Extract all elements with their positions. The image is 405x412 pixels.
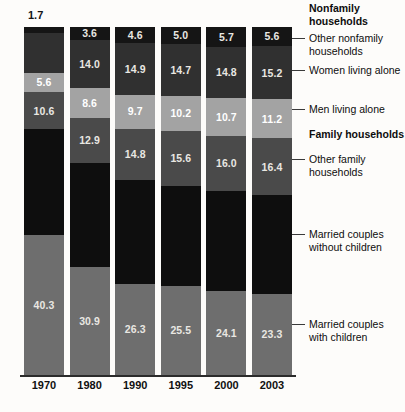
- legend-callout: Family households: [292, 128, 404, 141]
- bar-segment: 16.4: [252, 138, 292, 195]
- bar-segment: 14.8: [206, 47, 246, 99]
- bar-segment: 10.6: [24, 92, 64, 129]
- leader-line: [292, 38, 305, 39]
- stacked-bar-chart: 1.75.610.640.33.614.08.612.930.94.614.99…: [0, 0, 405, 412]
- x-axis-line: [20, 375, 296, 377]
- segment-value-label: 5.6: [37, 77, 52, 88]
- exterior-value-label: 1.7: [28, 9, 43, 21]
- bar-segment: [252, 195, 292, 293]
- bar-segment: [24, 33, 64, 73]
- legend-callout-label: Family households: [309, 128, 404, 141]
- segment-value-label: 23.3: [262, 329, 283, 340]
- segment-value-label: 4.6: [128, 30, 143, 41]
- legend-callout-label: Men living alone: [309, 103, 385, 116]
- segment-value-label: 30.9: [79, 316, 100, 327]
- segment-value-label: 16.0: [216, 158, 237, 169]
- legend-callout-label: Married couples without children: [309, 228, 384, 253]
- bar-segment: 10.2: [161, 96, 201, 132]
- bar-segment: 11.2: [252, 99, 292, 138]
- bar-segment: 9.7: [115, 95, 155, 129]
- bar-segment: 15.2: [252, 46, 292, 99]
- legend-callout: Nonfamily households: [292, 2, 405, 27]
- bar-segment: 24.1: [206, 291, 246, 375]
- bar-segment: 5.6: [24, 73, 64, 92]
- bar-segment: 5.0: [161, 27, 201, 44]
- bar-segment: 15.6: [161, 131, 201, 185]
- bar-column: 5.014.710.215.625.5: [161, 27, 201, 375]
- segment-value-label: 25.5: [170, 325, 191, 336]
- bar-segment: 14.8: [115, 129, 155, 180]
- segment-value-label: 9.7: [128, 106, 143, 117]
- segment-value-label: 26.3: [125, 324, 146, 335]
- bar-column: 5.714.810.716.024.1: [206, 27, 246, 375]
- legend-callout: Other family households: [292, 153, 366, 178]
- segment-value-label: 12.9: [79, 135, 100, 146]
- bar-segment: 5.6: [252, 27, 292, 46]
- legend-callouts: Nonfamily householdsOther nonfamily hous…: [292, 0, 405, 412]
- leader-line: [292, 234, 305, 235]
- bar-segment: [24, 129, 64, 234]
- segment-value-label: 40.3: [34, 300, 55, 311]
- bar-segment: [161, 186, 201, 287]
- leader-line: [292, 70, 305, 71]
- bar-segment: 4.6: [115, 27, 155, 43]
- x-tick-label-2003: 2003: [246, 379, 298, 391]
- segment-value-label: 5.7: [219, 32, 234, 43]
- bar-segment: 30.9: [70, 267, 110, 375]
- bar-column: 1.75.610.640.3: [24, 27, 64, 375]
- legend-callout: Other nonfamily households: [292, 32, 383, 57]
- legend-callout: Women living alone: [292, 64, 400, 77]
- segment-value-label: 24.1: [216, 328, 237, 339]
- bar-segment: 16.0: [206, 136, 246, 192]
- segment-value-label: 10.7: [216, 112, 237, 123]
- legend-callout: Men living alone: [292, 103, 385, 116]
- bar-segment: 23.3: [252, 294, 292, 375]
- bar-segment: 5.7: [206, 27, 246, 47]
- bar-column: 5.615.211.216.423.3: [252, 27, 292, 375]
- bar-segment: 40.3: [24, 235, 64, 375]
- leader-line: [292, 159, 305, 160]
- bar-segment: 14.0: [70, 40, 110, 89]
- legend-callout-label: Nonfamily households: [309, 2, 405, 27]
- segment-value-label: 15.6: [170, 153, 191, 164]
- segment-value-label: 10.6: [34, 106, 55, 117]
- segment-value-label: 14.8: [216, 67, 237, 78]
- leader-line: [292, 324, 305, 325]
- leader-line: [292, 8, 305, 9]
- segment-value-label: 5.6: [265, 31, 280, 42]
- segment-value-label: 11.2: [262, 114, 282, 125]
- segment-value-label: 14.7: [170, 65, 191, 76]
- segment-value-label: 5.0: [173, 30, 188, 41]
- x-tick-label-1980: 1980: [64, 379, 116, 391]
- x-tick-label-1995: 1995: [155, 379, 207, 391]
- segment-value-label: 3.6: [82, 28, 97, 39]
- bar-segment: 14.7: [161, 44, 201, 95]
- legend-callout-label: Other family households: [309, 153, 366, 178]
- x-tick-label-1990: 1990: [109, 379, 161, 391]
- bar-column: 3.614.08.612.930.9: [70, 27, 110, 375]
- legend-callout-label: Women living alone: [309, 64, 400, 77]
- segment-value-label: 16.4: [262, 162, 283, 173]
- plot-area: 1.75.610.640.33.614.08.612.930.94.614.99…: [24, 27, 292, 375]
- segment-value-label: 14.0: [79, 59, 100, 70]
- bar-segment: 12.9: [70, 118, 110, 163]
- x-tick-label-2000: 2000: [200, 379, 252, 391]
- segment-value-label: 8.6: [82, 98, 97, 109]
- segment-value-label: 15.2: [262, 68, 283, 79]
- bar-segment: 10.7: [206, 98, 246, 135]
- legend-callout-label: Other nonfamily households: [309, 32, 383, 57]
- legend-callout-label: Married couples with children: [309, 318, 384, 343]
- legend-callout: Married couples with children: [292, 318, 384, 343]
- bar-segment: 8.6: [70, 88, 110, 118]
- bar-column: 4.614.99.714.826.3: [115, 27, 155, 375]
- leader-line: [292, 134, 305, 135]
- legend-callout: Married couples without children: [292, 228, 384, 253]
- bar-segment: [206, 191, 246, 291]
- segment-value-label: 14.9: [125, 64, 146, 75]
- bar-segment: 25.5: [161, 286, 201, 375]
- bar-segment: 3.6: [70, 27, 110, 40]
- bar-segment: [115, 180, 155, 284]
- x-tick-label-1970: 1970: [18, 379, 70, 391]
- bar-segment: [70, 163, 110, 267]
- segment-value-label: 10.2: [170, 108, 191, 119]
